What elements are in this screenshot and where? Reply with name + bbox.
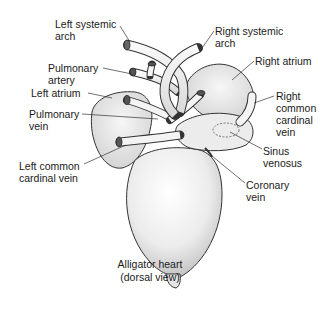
figure-caption: Alligator heart (dorsal view) <box>0 258 300 283</box>
label-left-common-cardinal-vein: Left common cardinal vein <box>19 160 80 184</box>
label-left-atrium: Left atrium <box>31 87 81 99</box>
label-right-common-cardinal-vein: Right common cardinal vein <box>276 90 316 138</box>
label-right-atrium: Right atrium <box>255 55 312 67</box>
label-pulmonary-artery: Pulmonary artery <box>48 62 98 86</box>
label-left-systemic-arch: Left systemic arch <box>55 18 116 42</box>
label-sinus-venosus: Sinus venosus <box>263 145 302 169</box>
label-right-systemic-arch: Right systemic arch <box>215 25 283 49</box>
label-coronary-vein: Coronary vein <box>246 179 289 203</box>
label-pulmonary-vein: Pulmonary vein <box>29 108 79 132</box>
